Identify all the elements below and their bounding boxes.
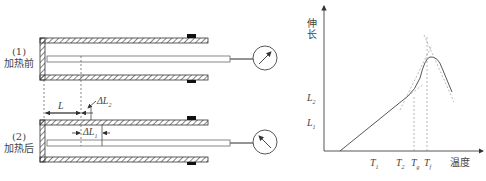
- diagram-canvas: [0, 0, 486, 181]
- y-axis-label: 伸长: [306, 18, 318, 40]
- thermal-expansion-chart: [324, 6, 483, 151]
- delta-L2-label: ΔL2: [97, 95, 111, 111]
- tube-bottom-wall: [40, 75, 208, 80]
- apparatus-before-heating: [40, 34, 277, 120]
- stage2-label: 加热后: [2, 143, 36, 154]
- tube-top-wall: [40, 38, 208, 43]
- expansion-curve: [340, 57, 452, 151]
- clamp-top: [187, 34, 196, 38]
- x-tick-Tf: Tf: [424, 157, 431, 173]
- sample-rod: [47, 56, 230, 62]
- length-L-label: L: [58, 100, 64, 111]
- clamp-bottom: [187, 80, 196, 83]
- x-axis-label: 温度: [450, 157, 470, 168]
- tube-end-wall: [40, 38, 45, 80]
- stage1-label: 加热前: [2, 58, 36, 69]
- y-tick-L2: L2: [307, 92, 316, 108]
- y-tick-L1: L1: [307, 117, 316, 133]
- stage2-number: (2): [2, 131, 36, 142]
- x-tick-T2: T2: [396, 157, 405, 173]
- x-tick-Tg: Tg: [411, 157, 420, 173]
- stage1-number: (1): [2, 46, 36, 57]
- apparatus-after-heating: [40, 116, 277, 165]
- delta-L1-label: ΔL1: [83, 126, 97, 142]
- x-tick-T1: T1: [370, 157, 379, 173]
